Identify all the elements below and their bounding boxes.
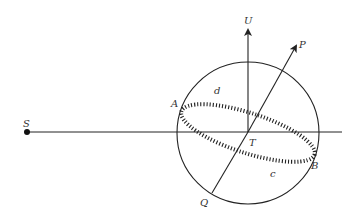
label-q: Q bbox=[200, 197, 208, 208]
label-c: c bbox=[270, 168, 276, 179]
label-p: P bbox=[298, 39, 306, 50]
label-b: B bbox=[310, 160, 318, 171]
label-a: A bbox=[170, 98, 178, 109]
label-t: T bbox=[249, 137, 257, 148]
label-s: S bbox=[23, 118, 30, 129]
diagram-svg: S U P A d T B c Q bbox=[0, 0, 363, 218]
label-d: d bbox=[214, 85, 220, 96]
diagram-canvas: S U P A d T B c Q bbox=[0, 0, 363, 218]
arrow-p bbox=[248, 46, 296, 132]
label-u: U bbox=[244, 15, 253, 26]
point-s bbox=[24, 129, 30, 135]
